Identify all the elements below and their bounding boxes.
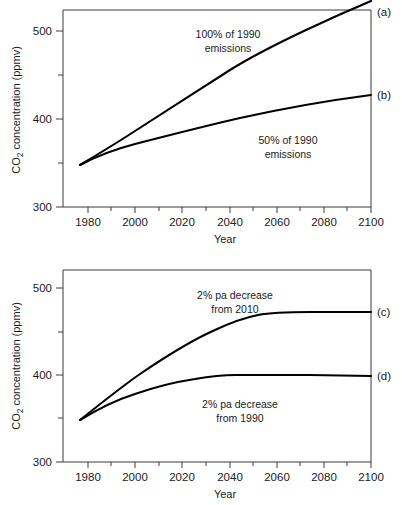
y-tick-label-500-top: 500 (33, 25, 52, 37)
annotation-b-line2: emissions (265, 148, 312, 160)
x-tick-label-2080-top: 2080 (311, 216, 337, 228)
x-tick-label-2060-top: 2060 (264, 216, 290, 228)
chart-panel-top: 500 400 300 1980 2000 2020 2040 2060 208… (0, 0, 402, 250)
figure-co2-scenarios: 500 400 300 1980 2000 2020 2040 2060 208… (0, 0, 402, 505)
y-axis-title-top: CO2 concentration (ppmv) (10, 46, 25, 174)
y-tick-label-300-bottom: 300 (33, 456, 52, 468)
curve-tag-b: (b) (377, 89, 391, 101)
x-tick-label-2000-top: 2000 (122, 216, 148, 228)
curve-tag-d: (d) (377, 370, 391, 382)
x-tick-label-2020-bottom: 2020 (169, 471, 195, 483)
x-tick-label-2040-bottom: 2040 (217, 471, 243, 483)
y-tick-label-300-top: 300 (33, 201, 52, 213)
x-tick-label-2100-bottom: 2100 (358, 471, 384, 483)
x-tick-label-2040-top: 2040 (217, 216, 243, 228)
annotation-c-line2: from 2010 (211, 303, 258, 315)
y-tick-label-400-top: 400 (33, 113, 52, 125)
x-tick-label-2080-bottom: 2080 (311, 471, 337, 483)
chart-svg-top: 500 400 300 1980 2000 2020 2040 2060 208… (0, 0, 402, 250)
annotation-d-line2: from 1990 (216, 412, 263, 424)
chart-svg-bottom: 500 400 300 1980 2000 2020 2040 2060 208… (0, 256, 402, 505)
x-tick-label-2020-top: 2020 (169, 216, 195, 228)
x-tick-label-1980-top: 1980 (75, 216, 101, 228)
curve-tag-a: (a) (377, 6, 391, 18)
x-tick-label-2060-bottom: 2060 (264, 471, 290, 483)
x-tick-label-1980-bottom: 1980 (75, 471, 101, 483)
curve-a-line (80, 1, 371, 165)
annotation-d-line1: 2% pa decrease (202, 398, 278, 410)
annotation-b-line1: 50% of 1990 (259, 134, 318, 146)
x-axis-title-top: Year (214, 233, 237, 245)
x-tick-label-2100-top: 2100 (358, 216, 384, 228)
chart-panel-bottom: 500 400 300 1980 2000 2020 2040 2060 208… (0, 256, 402, 505)
annotation-a-line2: emissions (205, 42, 252, 54)
y-tick-label-400-bottom: 400 (33, 369, 52, 381)
x-axis-title-bottom: Year (214, 488, 237, 500)
curve-b-line (80, 95, 371, 165)
curve-tag-c: (c) (377, 306, 391, 318)
annotation-a-line1: 100% of 1990 (196, 28, 261, 40)
x-tick-label-2000-bottom: 2000 (122, 471, 148, 483)
y-tick-label-500-bottom: 500 (33, 282, 52, 294)
y-axis-title-bottom: CO2 concentration (ppmv) (10, 302, 25, 430)
annotation-c-line1: 2% pa decrease (197, 289, 273, 301)
